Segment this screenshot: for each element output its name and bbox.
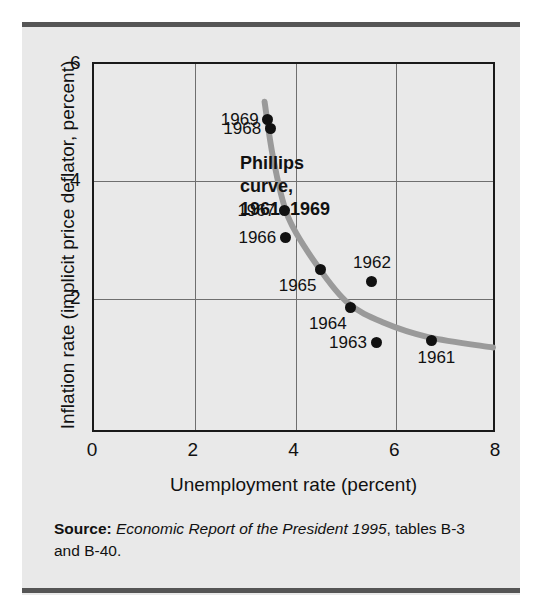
x-tick-0: 0 <box>87 440 98 459</box>
source-note: Source: Economic Report of the President… <box>54 518 490 563</box>
annotation-line: Phillips <box>240 152 330 175</box>
data-point-label-1965: 1965 <box>279 277 317 294</box>
data-point-1961 <box>426 335 437 346</box>
phillips-curve-line <box>265 102 493 348</box>
top-rule <box>22 22 520 27</box>
data-point-1966 <box>280 232 291 243</box>
data-point-label-1962: 1962 <box>353 254 391 271</box>
curve-layer <box>94 64 493 430</box>
data-point-label-1969: 1969 <box>221 111 259 128</box>
data-point-label-1961: 1961 <box>418 349 456 366</box>
data-point-label-1963: 1963 <box>329 334 367 351</box>
annotation-line: 1961–1969 <box>240 198 330 221</box>
x-tick-6: 6 <box>389 440 400 459</box>
phillips-curve-annotation: Phillipscurve,1961–1969 <box>240 152 330 221</box>
plot-area: 196119621963196419651966196719681969 <box>92 62 495 432</box>
y-axis-label: Inflation rate (implicit price deflator,… <box>57 55 79 435</box>
source-lead: Source: <box>54 520 112 537</box>
data-point-label-1964: 1964 <box>309 315 347 332</box>
y-tick-2: 2 <box>70 287 81 306</box>
source-title: Economic Report of the President 1995 <box>116 520 387 537</box>
data-point-1962 <box>366 276 377 287</box>
x-axis-label: Unemployment rate (percent) <box>92 474 495 496</box>
x-tick-4: 4 <box>288 440 299 459</box>
phillips-curve-chart: Inflation rate (implicit price deflator,… <box>22 30 520 500</box>
data-point-label-1966: 1966 <box>238 229 276 246</box>
figure-panel: Inflation rate (implicit price deflator,… <box>22 22 520 595</box>
y-tick-4: 4 <box>70 170 81 189</box>
y-tick-6: 6 <box>70 53 81 72</box>
bottom-rule <box>22 588 520 593</box>
x-tick-8: 8 <box>490 440 501 459</box>
annotation-line: curve, <box>240 175 330 198</box>
x-tick-2: 2 <box>187 440 198 459</box>
